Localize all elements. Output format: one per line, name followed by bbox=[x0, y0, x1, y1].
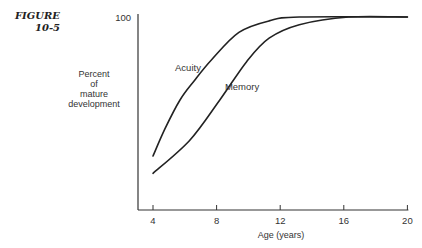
x-tick-label: 12 bbox=[275, 215, 286, 226]
x-axis-label: Age (years) bbox=[258, 230, 305, 240]
series-lines bbox=[153, 16, 407, 173]
chart-plot: 48121620100 AcuityMemory Age (years) bbox=[0, 0, 422, 248]
axes: 48121620100 bbox=[115, 12, 413, 226]
series-line-acuity bbox=[153, 17, 407, 156]
series-label-acuity: Acuity bbox=[175, 62, 201, 73]
x-tick-label: 16 bbox=[339, 215, 350, 226]
y-tick-label: 100 bbox=[115, 12, 131, 23]
series-line-memory bbox=[153, 16, 407, 173]
series-label-memory: Memory bbox=[225, 81, 260, 92]
x-tick-label: 8 bbox=[214, 215, 219, 226]
x-tick-label: 4 bbox=[150, 215, 155, 226]
x-tick-label: 20 bbox=[402, 215, 413, 226]
